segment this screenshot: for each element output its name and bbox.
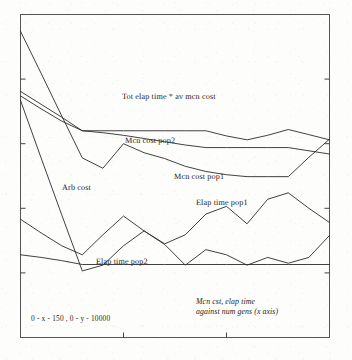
series-label-5: Elap time pop2 — [96, 257, 148, 267]
series-label-2: Mcn cost pop1 — [174, 172, 224, 182]
axis-range-note: 0 - x - 150 , 0 - y - 10000 — [31, 314, 110, 323]
chart-figure: Tot elap time * av mcn costMcn cost pop2… — [0, 0, 352, 360]
series-line-0 — [21, 31, 330, 176]
chart-caption-line-2: against num gens (x axis) — [196, 307, 278, 317]
series-label-3: Arb cost — [62, 183, 91, 193]
chart-caption-line-1: Mcn cst, elap time — [196, 297, 255, 307]
series-label-1: Mcn cost pop2 — [125, 136, 175, 146]
series-label-4: Elap time pop1 — [196, 198, 248, 208]
series-line-4 — [21, 193, 330, 255]
data-series-group — [21, 31, 330, 271]
axis-tick-marks — [21, 79, 330, 337]
series-line-5 — [21, 255, 330, 265]
series-label-0: Tot elap time * av mcn cost — [122, 92, 216, 102]
